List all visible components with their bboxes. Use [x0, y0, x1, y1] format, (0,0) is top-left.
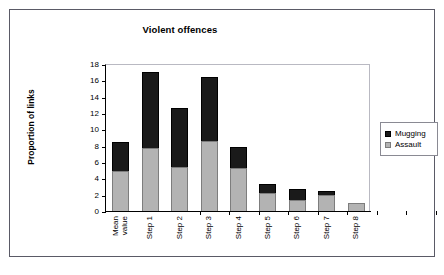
- y-axis-tick-label: 4: [95, 175, 99, 183]
- bar-step-6: [289, 189, 306, 211]
- x-axis-label-line: Step 2: [175, 216, 184, 239]
- bar-segment-mugging: [112, 142, 129, 171]
- bar-segment-assault: [112, 171, 129, 211]
- x-axis-label-line: Step 8: [351, 216, 360, 239]
- x-axis-label: Step 6: [292, 216, 301, 239]
- y-axis-tick: [102, 196, 106, 197]
- x-axis-label-line: value: [120, 216, 129, 236]
- x-axis-label: Step 8: [351, 216, 360, 239]
- bar-segment-assault: [289, 200, 306, 211]
- x-axis-tick: [436, 211, 437, 215]
- legend-swatch-assault: [385, 142, 391, 148]
- x-axis-label-line: Step 6: [292, 216, 301, 239]
- y-axis-tick-label: 10: [90, 126, 99, 134]
- bar-step-3: [201, 77, 218, 211]
- x-axis-label-line: Step 3: [204, 216, 213, 239]
- y-axis-tick: [102, 179, 106, 180]
- bar-segment-mugging: [259, 184, 276, 193]
- x-axis-label-line: Mean: [111, 216, 120, 236]
- x-axis-tick: [347, 211, 348, 215]
- bar-step-5: [259, 184, 276, 211]
- bar-segment-assault: [318, 195, 335, 211]
- x-axis-tick: [318, 211, 319, 215]
- chart-figure: Violent offences Proportion of links 024…: [9, 9, 435, 257]
- x-axis-label: Step 2: [175, 216, 184, 239]
- x-axis-tick: [406, 211, 407, 215]
- bar-segment-assault: [230, 168, 247, 211]
- x-axis-label: Meanvalue: [111, 216, 129, 236]
- legend-label-mugging: Mugging: [395, 129, 426, 138]
- y-axis-tick: [102, 81, 106, 82]
- legend-label-assault: Assault: [395, 140, 421, 149]
- x-axis-label-line: Step 1: [145, 216, 154, 239]
- bar-step-7: [318, 191, 335, 211]
- y-axis-tick-label: 0: [95, 208, 99, 216]
- bar-segment-assault: [259, 193, 276, 211]
- x-axis-label: Step 5: [263, 216, 272, 239]
- x-axis-label-line: Step 7: [322, 216, 331, 239]
- x-axis-label-line: Step 5: [263, 216, 272, 239]
- plot-area: 024681012141618: [105, 64, 370, 211]
- legend-item-assault: Assault: [385, 140, 433, 149]
- bar-segment-assault: [171, 167, 188, 211]
- bar-mean-value: [112, 142, 129, 211]
- legend-swatch-mugging: [385, 131, 391, 137]
- bar-segment-assault: [142, 148, 159, 211]
- y-axis-tick-label: 14: [90, 94, 99, 102]
- x-axis-label: Step 3: [204, 216, 213, 239]
- x-axis-label: Step 4: [234, 216, 243, 239]
- y-axis-tick: [102, 147, 106, 148]
- y-axis-tick: [102, 114, 106, 115]
- x-axis-line: [105, 211, 371, 212]
- bar-step-2: [171, 108, 188, 211]
- y-axis-tick-label: 16: [90, 77, 99, 85]
- bar-segment-assault: [348, 203, 365, 211]
- x-axis-tick: [377, 211, 378, 215]
- bar-step-4: [230, 147, 247, 212]
- y-axis-tick: [102, 130, 106, 131]
- bar-step-1: [142, 72, 159, 211]
- y-axis-tick: [102, 212, 106, 213]
- x-axis-tick: [229, 211, 230, 215]
- y-axis-tick: [102, 98, 106, 99]
- y-axis-tick-label: 8: [95, 143, 99, 151]
- bar-segment-mugging: [201, 77, 218, 141]
- y-axis-tick-label: 6: [95, 159, 99, 167]
- bar-step-8: [348, 203, 365, 211]
- y-axis-tick-label: 12: [90, 110, 99, 118]
- x-axis-label: Step 1: [145, 216, 154, 239]
- x-axis-label-line: Step 4: [234, 216, 243, 239]
- x-axis-tick: [288, 211, 289, 215]
- legend-item-mugging: Mugging: [385, 129, 433, 138]
- y-axis-title: Proportion of links: [26, 62, 36, 192]
- chart-legend: Mugging Assault: [380, 122, 438, 156]
- x-axis-tick: [259, 211, 260, 215]
- bar-segment-mugging: [289, 189, 306, 200]
- y-axis-tick-label: 18: [90, 61, 99, 69]
- x-axis-label: Step 7: [322, 216, 331, 239]
- bar-segment-assault: [201, 141, 218, 211]
- chart-title: Violent offences: [10, 24, 350, 35]
- y-axis-tick: [102, 65, 106, 66]
- bar-segment-mugging: [142, 72, 159, 148]
- x-axis-tick: [200, 211, 201, 215]
- bar-segment-mugging: [230, 147, 247, 168]
- y-axis-tick-label: 2: [95, 192, 99, 200]
- y-axis-tick: [102, 163, 106, 164]
- bar-segment-mugging: [171, 108, 188, 167]
